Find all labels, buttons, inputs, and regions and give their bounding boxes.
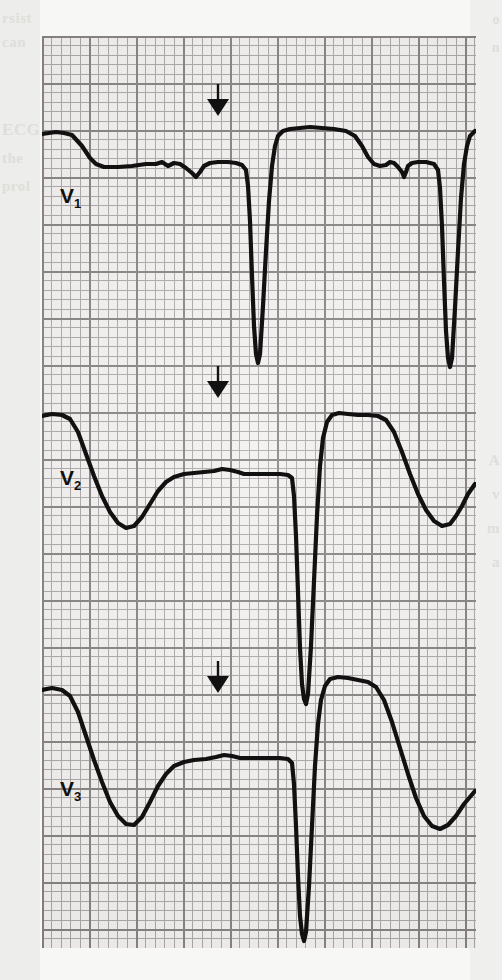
ecg-trace-v1 <box>42 127 475 367</box>
bleed-text-right-3: v <box>492 486 500 503</box>
scanned-page-background: rsist can ECG the prol o n A v m a V1V2V… <box>0 0 502 980</box>
bleed-text-left-3: the <box>2 150 24 167</box>
lead-label-letter: V <box>60 777 74 800</box>
lead-label-v2: V2 <box>60 466 81 493</box>
bleed-text-left-0: rsist <box>2 10 32 27</box>
bleed-text-right-5: a <box>492 554 500 571</box>
bleed-text-right-2: A <box>489 452 500 469</box>
ecg-trace-v2 <box>42 413 475 704</box>
bleed-text-left-4: prol <box>2 178 30 195</box>
lead-label-v3: V3 <box>60 777 81 804</box>
ecg-paper-strip <box>42 36 476 948</box>
bleed-text-right-4: m <box>487 520 500 537</box>
lead-label-index: 3 <box>74 789 81 804</box>
bleed-text-left-2: ECG <box>2 120 40 140</box>
bleed-text-left-1: can <box>2 34 26 51</box>
ecg-trace-layer <box>42 36 476 948</box>
bleed-text-right-1: n <box>492 40 500 56</box>
lead-label-index: 1 <box>74 196 81 211</box>
lead-label-v1: V1 <box>60 184 81 211</box>
lead-label-index: 2 <box>74 478 81 493</box>
lead-label-letter: V <box>60 184 74 207</box>
lead-label-letter: V <box>60 466 74 489</box>
bleed-text-right-0: o <box>493 12 501 28</box>
ecg-trace-v3 <box>42 677 475 941</box>
